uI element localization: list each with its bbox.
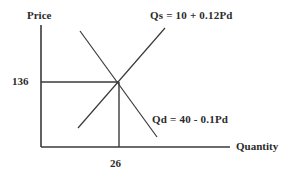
x-axis-tick-label: 26 xyxy=(110,158,121,169)
demand-equation-label: Qd = 40 - 0.1Pd xyxy=(152,114,228,125)
supply-demand-diagram: Price Quantity 136 26 Qs = 10 + 0.12Pd Q… xyxy=(0,0,299,182)
y-axis-tick-label: 136 xyxy=(12,76,29,87)
y-axis-label: Price xyxy=(27,10,51,21)
x-axis-label: Quantity xyxy=(236,141,278,152)
supply-equation-label: Qs = 10 + 0.12Pd xyxy=(150,10,233,21)
diagram-canvas xyxy=(0,0,299,182)
